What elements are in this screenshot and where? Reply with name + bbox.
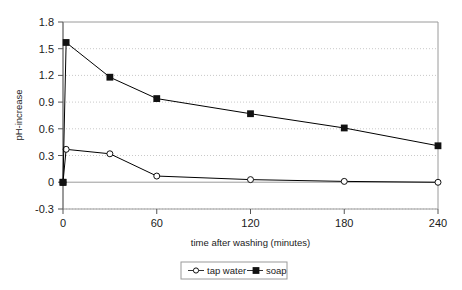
- filled-square-marker: [247, 110, 254, 117]
- x-axis-ticks: [63, 209, 438, 214]
- x-axis-title: time after washing (minutes): [191, 237, 310, 248]
- y-tick-label: 1.8: [39, 16, 54, 28]
- chart-legend: tap water soap: [181, 262, 287, 279]
- legend-label-soap: soap: [266, 265, 287, 276]
- ph-increase-line-chart: 1.8 1.5 1.2 0.9 0.6 0.3 0 -0.3 0 60 120 …: [0, 0, 462, 290]
- filled-square-marker: [153, 95, 160, 102]
- y-tick-label: 0.6: [39, 123, 54, 135]
- x-tick-label: 120: [241, 217, 259, 229]
- y-tick-label: -0.3: [35, 203, 54, 215]
- y-tick-label: 1.2: [39, 69, 54, 81]
- y-tick-label: 1.5: [39, 43, 54, 55]
- y-tick-label: 0: [48, 176, 54, 188]
- open-circle-marker: [107, 151, 113, 157]
- x-tick-label: 180: [335, 217, 353, 229]
- filled-square-marker: [106, 74, 113, 81]
- open-circle-marker: [435, 179, 441, 185]
- open-circle-marker: [154, 173, 160, 179]
- chart-figure: 1.8 1.5 1.2 0.9 0.6 0.3 0 -0.3 0 60 120 …: [0, 0, 462, 290]
- x-tick-label: 60: [151, 217, 163, 229]
- open-circle-icon: [193, 268, 198, 273]
- open-circle-marker: [248, 177, 254, 183]
- filled-square-marker: [435, 142, 442, 149]
- origin-marker: [60, 179, 67, 186]
- legend-label-tap-water: tap water: [207, 265, 246, 276]
- open-circle-marker: [341, 178, 347, 184]
- x-tick-label: 0: [60, 217, 66, 229]
- filled-square-marker: [341, 125, 348, 132]
- y-tick-label: 0.3: [39, 150, 54, 162]
- y-axis-title: pH-increase: [13, 89, 24, 140]
- filled-square-marker: [63, 39, 70, 46]
- filled-square-icon: [253, 267, 260, 274]
- y-tick-label: 0.9: [39, 96, 54, 108]
- x-tick-label: 240: [429, 217, 447, 229]
